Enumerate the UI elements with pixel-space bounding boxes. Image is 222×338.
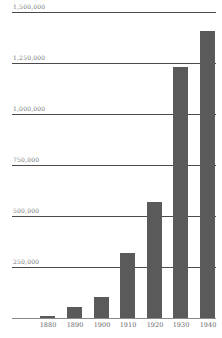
bar-1890 <box>67 307 82 318</box>
y-tick-label: 750,000 <box>13 156 39 163</box>
y-tick-label: 250,000 <box>13 258 39 265</box>
bar-1880 <box>40 316 55 318</box>
gridline <box>12 12 216 13</box>
x-tick-label: 1880 <box>35 321 61 329</box>
bar-1930 <box>173 67 188 318</box>
x-tick-label: 1900 <box>89 321 115 329</box>
bar-chart: 250,000500,000750,0001,000,0001,250,0001… <box>0 0 222 338</box>
y-tick-label: 1,000,000 <box>13 105 45 112</box>
y-tick-label: 1,250,000 <box>13 54 45 61</box>
x-axis-line <box>12 318 216 319</box>
bar-1900 <box>94 297 109 318</box>
y-tick-label: 1,500,000 <box>13 3 45 10</box>
x-tick-label: 1890 <box>62 321 88 329</box>
x-tick-label: 1910 <box>115 321 141 329</box>
x-tick-label: 1930 <box>168 321 194 329</box>
bar-1920 <box>147 202 162 318</box>
x-tick-label: 1920 <box>142 321 168 329</box>
x-tick-label: 1940 <box>195 321 221 329</box>
bar-1910 <box>120 253 135 318</box>
gridline <box>12 63 216 64</box>
bar-1940 <box>200 31 215 318</box>
y-tick-label: 500,000 <box>13 207 39 214</box>
